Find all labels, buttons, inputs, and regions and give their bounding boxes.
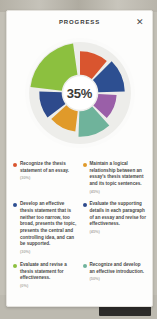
- legend-item-percent: (45%): [90, 229, 147, 235]
- legend-item-percent: (45%): [90, 189, 147, 195]
- legend-bullet-icon: [83, 203, 87, 207]
- page-title: PROGRESS: [7, 19, 152, 25]
- legend-list: Recognize the thesis statement of an ess…: [7, 161, 152, 306]
- legend-item-label: Develop an effective thesis statement th…: [20, 201, 77, 248]
- legend-item-evaluate-supporting-details[interactable]: Evaluate the supporting details in each …: [83, 201, 147, 254]
- legend-text-block: Recognize and develop an effective intro…: [90, 262, 147, 282]
- legend-text-block: Evaluate the supporting details in each …: [90, 201, 147, 234]
- legend-bullet-icon: [13, 264, 17, 268]
- legend-text-block: Develop an effective thesis statement th…: [20, 201, 77, 254]
- legend-item-label: Maintain a logical relationship between …: [90, 161, 147, 188]
- legend-item-maintain-logical-relationship[interactable]: Maintain a logical relationship between …: [83, 161, 147, 194]
- legend-bullet-icon: [13, 163, 17, 167]
- legend-item-label: Recognize and develop an effective intro…: [90, 262, 147, 275]
- legend-bullet-icon: [83, 264, 87, 268]
- legend-item-percent: (50%): [90, 276, 147, 282]
- legend-text-block: Evaluate and revise a thesis statement f…: [20, 262, 77, 289]
- legend-item-recognize-develop-introduction[interactable]: Recognize and develop an effective intro…: [83, 262, 147, 289]
- legend-item-percent: (0%): [20, 283, 77, 289]
- legend-item-percent: (30%): [20, 249, 77, 255]
- legend-item-percent: (30%): [20, 175, 77, 181]
- card-header: PROGRESS ✕: [7, 11, 152, 35]
- legend-text-block: Maintain a logical relationship between …: [90, 161, 147, 194]
- legend-item-label: Evaluate the supporting details in each …: [90, 201, 147, 228]
- progress-percent-label: 35%: [67, 86, 92, 101]
- close-icon[interactable]: ✕: [134, 17, 145, 28]
- legend-text-block: Recognize the thesis statement of an ess…: [20, 161, 77, 181]
- legend-item-recognize-thesis-statement[interactable]: Recognize the thesis statement of an ess…: [13, 161, 77, 194]
- progress-card: PROGRESS ✕ 35% Recognize the thesis stat…: [6, 10, 153, 307]
- legend-item-evaluate-revise-thesis[interactable]: Evaluate and revise a thesis statement f…: [13, 262, 77, 289]
- legend-bullet-icon: [13, 203, 17, 207]
- legend-bullet-icon: [83, 163, 87, 167]
- legend-item-label: Recognize the thesis statement of an ess…: [20, 161, 77, 174]
- progress-chart: 35%: [7, 35, 152, 153]
- legend-item-develop-effective-thesis[interactable]: Develop an effective thesis statement th…: [13, 201, 77, 254]
- screen: PROGRESS ✕ 35% Recognize the thesis stat…: [0, 0, 157, 319]
- legend-item-label: Evaluate and revise a thesis statement f…: [20, 262, 77, 282]
